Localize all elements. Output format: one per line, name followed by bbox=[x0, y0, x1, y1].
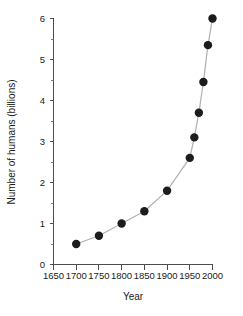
y-axis-major-ticks bbox=[50, 19, 54, 265]
data-point bbox=[195, 109, 203, 117]
data-point bbox=[190, 133, 198, 141]
x-tick-label-2000: 2000 bbox=[202, 270, 223, 281]
y-tick-label-0: 0 bbox=[40, 259, 45, 270]
data-point bbox=[204, 41, 212, 49]
x-tick-label-1800: 1800 bbox=[111, 270, 132, 281]
y-tick-label-3: 3 bbox=[40, 136, 45, 147]
y-tick-label-2: 2 bbox=[40, 177, 45, 188]
x-tick-label-1950: 1950 bbox=[179, 270, 200, 281]
data-point bbox=[72, 240, 80, 248]
x-tick-label-1850: 1850 bbox=[134, 270, 155, 281]
data-point bbox=[199, 78, 207, 86]
data-point bbox=[117, 219, 125, 227]
data-point bbox=[163, 187, 171, 195]
y-tick-label-1: 1 bbox=[40, 218, 45, 229]
chart-canvas: 0 1 2 3 4 5 6 1650 1700 1750 1800 1850 1 bbox=[0, 0, 243, 316]
x-axis-major-ticks bbox=[54, 265, 213, 270]
data-point bbox=[95, 232, 103, 240]
data-point bbox=[186, 154, 194, 162]
x-tick-label-1700: 1700 bbox=[66, 270, 87, 281]
y-tick-label-5: 5 bbox=[40, 54, 45, 65]
y-tick-label-4: 4 bbox=[40, 95, 45, 106]
x-tick-label-1900: 1900 bbox=[157, 270, 178, 281]
y-tick-label-6: 6 bbox=[40, 13, 45, 24]
x-axis-title: Year bbox=[123, 291, 144, 302]
data-point bbox=[140, 207, 148, 215]
x-tick-label-1750: 1750 bbox=[88, 270, 109, 281]
data-point bbox=[208, 14, 216, 22]
x-axis-tick-labels: 1650 1700 1750 1800 1850 1900 1950 2000 bbox=[43, 270, 223, 281]
y-axis-title: Number of humans (billions) bbox=[6, 79, 17, 204]
population-growth-chart: 0 1 2 3 4 5 6 1650 1700 1750 1800 1850 1 bbox=[0, 0, 243, 316]
x-tick-label-1650: 1650 bbox=[43, 270, 64, 281]
y-axis-tick-labels: 0 1 2 3 4 5 6 bbox=[40, 13, 45, 270]
